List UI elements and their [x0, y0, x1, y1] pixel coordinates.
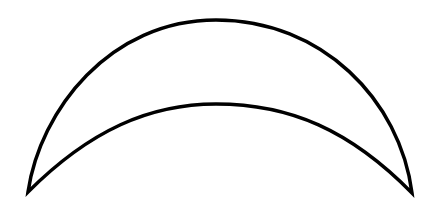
drawing-canvas: [0, 0, 437, 220]
crescent-outline: [28, 20, 412, 193]
crescent-figure: [0, 0, 437, 220]
